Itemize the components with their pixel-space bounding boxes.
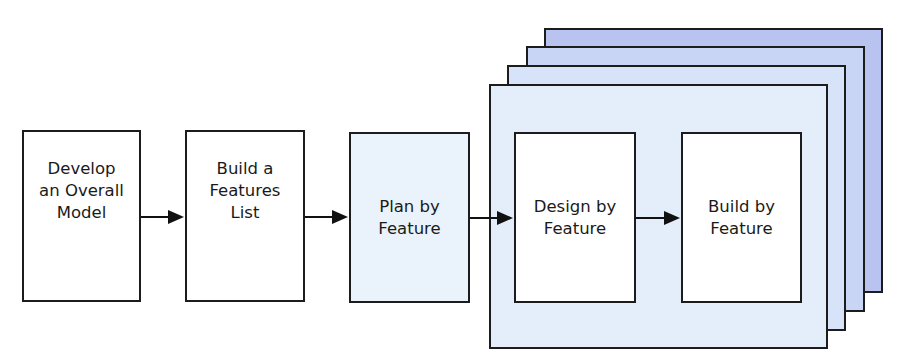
arrow-develop-to-features-list-icon: [141, 210, 184, 224]
arrow-features-list-to-plan-icon: [305, 210, 348, 224]
arrow-design-to-build-icon: [636, 211, 680, 225]
arrow-plan-to-design-icon: [470, 211, 513, 225]
flow-arrows: [0, 0, 905, 364]
